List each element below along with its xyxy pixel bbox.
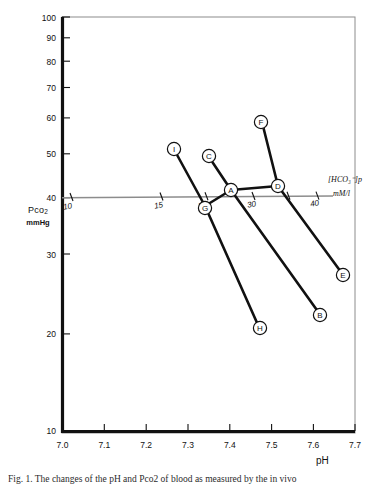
x-tick-label: 7.1: [98, 440, 110, 450]
x-tick-label: 7.3: [182, 440, 194, 450]
bicarbonate-axis-units: mM/l: [333, 189, 351, 198]
point-label: G: [202, 204, 208, 213]
x-tick-label: 7.7: [349, 440, 361, 450]
x-axis-label: pH: [316, 455, 329, 466]
x-axis-tick-labels: 7.0 7.1 7.2 7.3 7.4 7.5 7.6 7.7: [57, 440, 362, 450]
data-point-C: C: [202, 149, 215, 162]
plot-area-background: [62, 17, 355, 433]
point-label: I: [173, 145, 175, 154]
point-label: E: [340, 271, 345, 280]
y-tick-label: 10: [47, 426, 57, 436]
data-point-E: E: [336, 268, 349, 281]
x-tick-label: 7.5: [266, 440, 278, 450]
x-tick-label: 7.2: [140, 440, 152, 450]
y-tick-label: 20: [47, 329, 57, 339]
y-tick-label: 60: [47, 113, 57, 123]
point-label: D: [275, 182, 281, 191]
data-point-B: B: [313, 308, 326, 321]
y-axis-label-subscript: 2: [44, 208, 48, 215]
y-tick-label: 100: [42, 13, 56, 23]
figure-caption: Fig. 1. The changes of the pH and Pco2 o…: [8, 474, 372, 484]
y-tick-label: 50: [47, 149, 57, 159]
y-axis-units: mmHg: [14, 217, 62, 228]
point-label: F: [259, 118, 264, 127]
chart-canvas: 100 90 80 70 60 50 40 30 20 10 7.0 7.1 7…: [0, 0, 380, 487]
data-point-H: H: [253, 321, 266, 334]
bicarbonate-axis-label: [HCO₃⁻]p: [328, 175, 362, 184]
point-label: A: [228, 186, 234, 195]
y-tick-label: 90: [47, 33, 57, 43]
x-tick-label: 7.0: [57, 440, 69, 450]
data-point-F: F: [254, 115, 267, 128]
x-tick-label: 7.4: [224, 440, 236, 450]
data-point-D: D: [271, 179, 284, 192]
point-label: B: [317, 311, 322, 320]
y-axis-label: Pco2 mmHg: [14, 205, 62, 228]
figure-pco2-ph-diagram: 100 90 80 70 60 50 40 30 20 10 7.0 7.1 7…: [0, 0, 380, 487]
point-label: C: [206, 152, 212, 161]
data-point-I: I: [167, 142, 180, 155]
y-axis-label-text: Pco: [28, 205, 44, 215]
data-point-G: G: [198, 201, 211, 214]
y-tick-label: 40: [47, 193, 57, 203]
plot-frame: [62, 17, 355, 433]
y-tick-label: 30: [47, 250, 57, 260]
y-tick-label: 70: [47, 83, 57, 93]
point-label: H: [257, 324, 263, 333]
data-point-A: A: [224, 183, 237, 196]
x-tick-label: 7.6: [307, 440, 319, 450]
y-tick-label: 80: [47, 57, 57, 67]
